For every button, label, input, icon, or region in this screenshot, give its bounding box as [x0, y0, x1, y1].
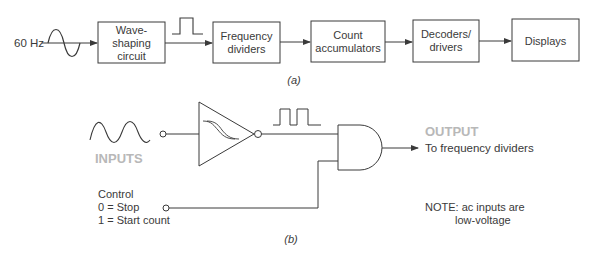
count-accumulators-line2: accumulators [315, 42, 381, 54]
control-start: 1 = Start count [98, 214, 170, 226]
frequency-dividers-line1: Frequency [221, 30, 273, 42]
ac-input-wave-icon [90, 122, 150, 143]
decoders-drivers-line1: Decoders/ [421, 28, 472, 40]
note-line1: NOTE: ac inputs are [425, 201, 525, 213]
inputs-label: INPUTS [95, 151, 143, 166]
caption-a: (a) [287, 74, 301, 86]
input-terminal [160, 131, 166, 137]
pulse-train-icon [273, 109, 321, 125]
frequency-dividers-line2: dividers [228, 43, 266, 55]
control-wire [169, 161, 338, 208]
count-accumulators-line1: Count [333, 29, 362, 41]
output-destination: To frequency dividers [425, 142, 534, 154]
control-stop: 0 = Stop [98, 201, 139, 213]
note-line2: low-voltage [455, 214, 511, 226]
caption-b: (b) [284, 233, 298, 245]
wave-shaping-line2: shaping [112, 37, 151, 49]
input-frequency-label: 60 Hz [14, 37, 44, 49]
wave-shaping-line1: Wave- [116, 24, 148, 36]
inverter-bubble [255, 131, 262, 138]
hysteresis-symbol-icon [203, 121, 235, 139]
control-title: Control [98, 188, 133, 200]
and-gate [338, 125, 382, 170]
decoders-drivers-line2: drivers [429, 41, 463, 53]
wave-shaping-line3: circuit [117, 50, 146, 62]
block-diagram-a: 60 Hz Wave- shaping circuit Frequency di… [14, 18, 579, 86]
control-terminal [163, 205, 169, 211]
displays-label: Displays [525, 35, 567, 47]
schematic-b: INPUTS OUTPUT To frequency dividers Cont… [90, 102, 534, 245]
frequency-counter-diagram: 60 Hz Wave- shaping circuit Frequency di… [0, 0, 593, 254]
square-pulse-icon [172, 18, 203, 34]
schmitt-trigger-inverter [199, 102, 254, 166]
output-label: OUTPUT [425, 124, 479, 139]
